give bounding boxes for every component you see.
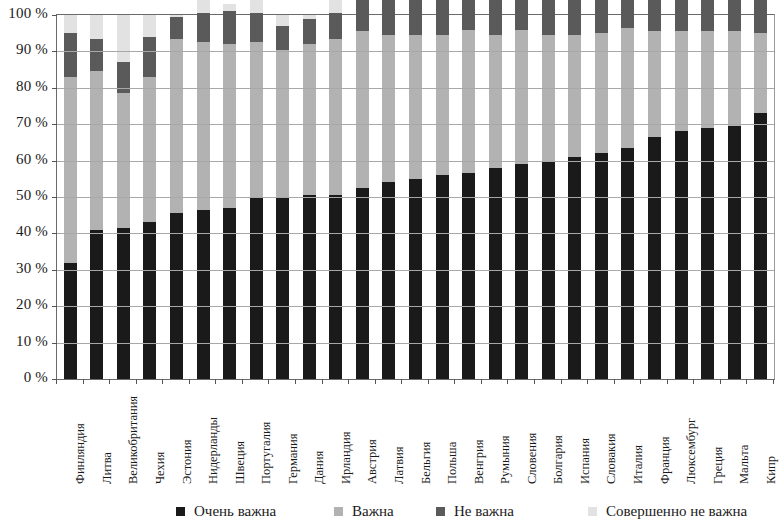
chart-legend: Очень важнаВажнаНе важнаСовершенно не ва… bbox=[0, 499, 779, 523]
x-axis-category-label: Чехия bbox=[154, 452, 167, 484]
x-axis-category-label: Румыния bbox=[499, 436, 512, 484]
x-axis-category-label: Франция bbox=[659, 437, 672, 485]
bar-segment bbox=[489, 0, 502, 35]
bar-segment bbox=[64, 33, 77, 77]
y-axis-tick-label: 80 % bbox=[16, 79, 48, 94]
y-axis-tick-mark bbox=[52, 270, 57, 271]
bar-segment bbox=[701, 128, 714, 379]
x-axis-category-label: Португалия bbox=[260, 422, 273, 484]
y-axis-tick-label: 20 % bbox=[16, 297, 48, 312]
x-axis-category-label: Венгрия bbox=[473, 440, 486, 484]
x-axis-category-label: Испания bbox=[579, 438, 592, 484]
y-axis-tick-mark bbox=[52, 306, 57, 307]
stacked-bar-chart: 0 %10 %20 %30 %40 %50 %60 %70 %80 %90 %1… bbox=[0, 0, 779, 527]
y-axis-tick-mark bbox=[52, 197, 57, 198]
bar-segment bbox=[197, 13, 210, 42]
bar-segment bbox=[329, 13, 342, 38]
bar-segment bbox=[542, 35, 555, 161]
gridline bbox=[57, 270, 774, 271]
legend-item-0[interactable]: Очень важна bbox=[176, 503, 276, 519]
y-axis-tick-mark bbox=[52, 343, 57, 344]
bar-segment bbox=[143, 222, 156, 379]
bar-segment bbox=[303, 15, 316, 19]
x-axis-category-label: Мальта bbox=[738, 445, 751, 484]
x-axis-category-label: Ирландия bbox=[340, 432, 353, 484]
y-axis-tick-mark bbox=[52, 161, 57, 162]
y-axis-tick-label: 90 % bbox=[16, 42, 48, 57]
bar-segment bbox=[595, 0, 608, 33]
legend-swatch-icon bbox=[176, 507, 185, 516]
bar-segment bbox=[276, 15, 289, 26]
bar-segment bbox=[329, 195, 342, 379]
bar-segment bbox=[675, 0, 688, 31]
gridline bbox=[57, 124, 774, 125]
y-axis-tick-mark bbox=[52, 88, 57, 89]
gridline bbox=[57, 233, 774, 234]
x-axis-category-label: Кипр bbox=[765, 456, 778, 484]
x-axis-category-label: Словакия bbox=[605, 433, 618, 484]
legend-swatch-icon bbox=[436, 507, 445, 516]
bar-segment bbox=[754, 33, 767, 113]
x-axis-category-label: Литва bbox=[101, 452, 114, 484]
bar-segment bbox=[64, 77, 77, 263]
bar-segment bbox=[90, 230, 103, 379]
legend-item-2[interactable]: Не важна bbox=[436, 503, 514, 519]
bar-segment bbox=[143, 77, 156, 223]
y-axis-tick-label: 100 % bbox=[8, 6, 48, 21]
bar-segment bbox=[568, 35, 581, 157]
x-axis-category-label: Эстония bbox=[181, 440, 194, 484]
bar-segment bbox=[728, 126, 741, 379]
bar-segment bbox=[117, 15, 130, 62]
x-axis-category-label: Финляндия bbox=[74, 423, 87, 484]
bar-segment bbox=[250, 0, 263, 13]
bar-segment bbox=[648, 31, 661, 137]
bar-segment bbox=[356, 0, 369, 31]
x-axis-category-label: Латвия bbox=[393, 446, 406, 484]
bar-segment bbox=[303, 195, 316, 379]
x-axis-category-label: Греция bbox=[712, 447, 725, 484]
x-axis-category-label: Словения bbox=[526, 433, 539, 484]
bar-segment bbox=[462, 0, 475, 30]
gridline bbox=[57, 306, 774, 307]
bar-segment bbox=[409, 0, 422, 35]
y-axis-tick-label: 40 % bbox=[16, 224, 48, 239]
bar-segment bbox=[303, 19, 316, 44]
legend-item-3[interactable]: Совершенно не важна bbox=[588, 503, 747, 519]
bar-segment bbox=[675, 31, 688, 131]
legend-label: Не важна bbox=[454, 503, 514, 519]
bar-segment bbox=[648, 0, 661, 31]
bar-segment bbox=[728, 0, 741, 31]
bar-segment bbox=[250, 42, 263, 197]
bar-segment bbox=[382, 0, 395, 35]
gridline bbox=[57, 51, 774, 52]
y-axis-tick-mark bbox=[52, 233, 57, 234]
x-axis-category-label: Нидерланды bbox=[207, 417, 220, 484]
bar-segment bbox=[223, 11, 236, 44]
bar-segment bbox=[382, 182, 395, 379]
bar-segment bbox=[143, 37, 156, 77]
x-axis-category-label: Болгария bbox=[552, 435, 565, 484]
gridline bbox=[57, 197, 774, 198]
gridline bbox=[57, 88, 774, 89]
y-axis-tick-mark bbox=[52, 15, 57, 16]
bar-segment bbox=[409, 35, 422, 179]
bar-segment bbox=[754, 0, 767, 33]
bar-segment bbox=[170, 17, 183, 39]
bar-segment bbox=[170, 213, 183, 379]
bar-segment bbox=[621, 148, 634, 379]
bar-segment bbox=[276, 197, 289, 379]
bar-segment bbox=[595, 153, 608, 379]
x-axis-category-label: Италия bbox=[632, 445, 645, 484]
bar-segment bbox=[356, 188, 369, 379]
legend-item-1[interactable]: Важна bbox=[334, 503, 394, 519]
bar-segment bbox=[515, 30, 528, 165]
bar-segment bbox=[303, 44, 316, 195]
bar-segment bbox=[197, 42, 210, 209]
bar-segment bbox=[436, 35, 449, 175]
bar-segment bbox=[250, 197, 263, 379]
legend-label: Важна bbox=[352, 503, 394, 519]
bar-segment bbox=[197, 210, 210, 379]
gridline bbox=[57, 343, 774, 344]
bar-segment bbox=[143, 15, 156, 37]
bar-segment bbox=[462, 173, 475, 379]
